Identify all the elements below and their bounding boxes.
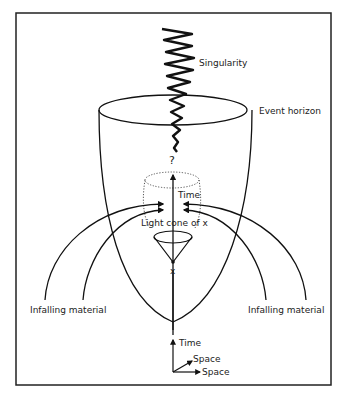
- label-infalling-right: Infalling material: [248, 305, 324, 315]
- point-x-dot: [171, 260, 175, 264]
- label-light-cone: Light cone of x: [141, 218, 208, 228]
- singularity-zigzag: [162, 29, 194, 152]
- axis-space-diagonal-arrow: [173, 361, 192, 372]
- label-question: ?: [169, 154, 175, 167]
- label-axis-space-1: Space: [193, 354, 221, 364]
- black-hole-spacetime-diagram: Singularity Event horizon ? Time Light c…: [0, 0, 345, 397]
- light-cone-dotted-top: [145, 172, 199, 188]
- label-event-horizon: Event horizon: [259, 106, 321, 116]
- label-time-inner: Time: [177, 190, 200, 200]
- label-axis-time: Time: [178, 338, 201, 348]
- label-axis-space-2: Space: [202, 367, 230, 377]
- label-singularity: Singularity: [199, 58, 248, 68]
- label-infalling-left: Infalling material: [30, 305, 106, 315]
- event-horizon-surface: [99, 110, 252, 322]
- label-point-x: x: [170, 266, 176, 276]
